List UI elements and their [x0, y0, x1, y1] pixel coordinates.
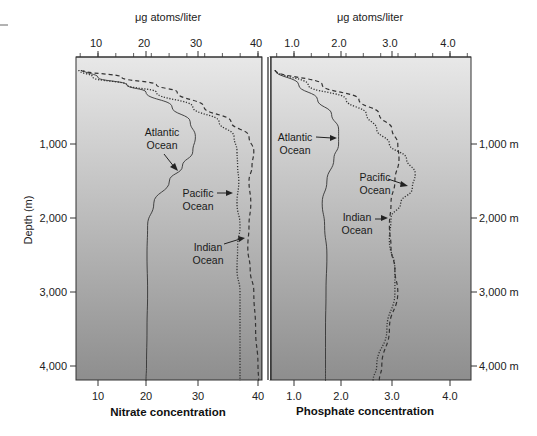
tick-label: 30 [190, 37, 202, 49]
depth-tick-label: 1,000 m [479, 138, 519, 150]
phosphate-bottom-axis: 1.02.03.04.0 [286, 380, 457, 402]
annotation-line-2: Ocean [193, 254, 224, 266]
depth-tick-label: 3,000 [39, 286, 67, 298]
depth-tick-label: 1,000 [39, 138, 67, 150]
depth-ylabel: Depth (m) [22, 196, 34, 245]
tick-label: 40 [252, 390, 264, 402]
depth-tick-label: 2,000 [39, 212, 67, 224]
annotation-line-2: Ocean [360, 184, 391, 196]
tick-label: 30 [192, 390, 204, 402]
depth-tick-label: 4,000 [39, 360, 67, 372]
annotation-line-1: Atlantic [278, 131, 312, 143]
ocean-nutrient-figure: 10203040 1.02.03.04.0 10203040 1.02.03.0… [0, 0, 537, 436]
annotation-line-1: Indian [343, 211, 372, 223]
annotation-line-2: Ocean [147, 139, 178, 151]
annotation-line-2: Ocean [280, 144, 311, 156]
depth-axis-right: 1,000 m2,000 m3,000 m4,000 m [471, 138, 519, 372]
annotation-line-1: Pacific [360, 171, 391, 183]
depth-axis-left: 1,0002,0003,0004,000 [39, 138, 76, 372]
annotation-line-1: Indian [194, 241, 223, 253]
tick-label: 20 [140, 390, 152, 402]
depth-tick-label: 2,000 m [479, 212, 519, 224]
tick-label: 3.0 [382, 37, 397, 49]
annotation-line-2: Ocean [183, 200, 214, 212]
tick-label: 40 [250, 37, 262, 49]
phosphate-xlabel: Phosphate concentration [296, 405, 434, 417]
phosphate-top-axis: 1.02.03.04.0 [270, 37, 471, 57]
tick-label: 10 [90, 37, 102, 49]
nitrate-bottom-axis: 10203040 [92, 380, 264, 402]
phosphate-unit-label: μg atoms/liter [337, 11, 404, 23]
tick-label: 20 [138, 37, 150, 49]
annotation-line-1: Pacific [183, 187, 214, 199]
annotation-line-1: Atlantic [145, 126, 179, 138]
depth-tick-label: 4,000 m [479, 360, 519, 372]
tick-label: 1.0 [286, 390, 301, 402]
tick-label: 3.0 [384, 390, 399, 402]
nitrate-top-axis: 10203040 [76, 37, 262, 57]
tick-label: 1.0 [284, 37, 299, 49]
annotation-line-2: Ocean [342, 224, 373, 236]
tick-label: 10 [92, 390, 104, 402]
panel-divider-gap [262, 57, 270, 380]
tick-label: 2.0 [331, 37, 346, 49]
tick-label: 4.0 [440, 37, 455, 49]
tick-label: 2.0 [333, 390, 348, 402]
depth-tick-label: 3,000 m [479, 286, 519, 298]
nitrate-unit-label: μg atoms/liter [135, 11, 202, 23]
tick-label: 4.0 [442, 390, 457, 402]
nitrate-xlabel: Nitrate concentration [110, 406, 226, 418]
nitrate-plot-area [76, 57, 262, 380]
